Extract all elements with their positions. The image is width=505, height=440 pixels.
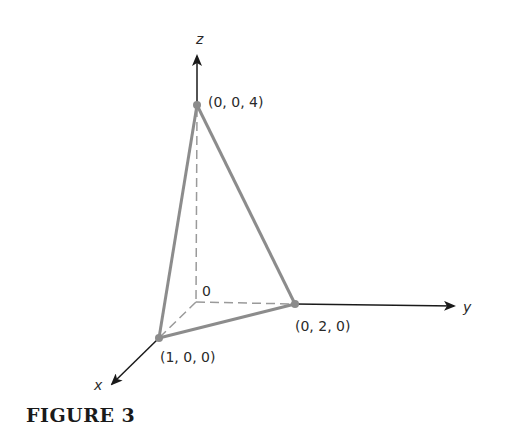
edge-apex-x — [159, 105, 197, 338]
point-label-0-0-4: (0, 0, 4) — [208, 94, 263, 110]
point-label-1-0-0: (1, 0, 0) — [160, 349, 215, 365]
figure-caption: FIGURE 3 — [26, 404, 135, 426]
hidden-edge-z — [196, 108, 197, 302]
vertex-1-0-0 — [155, 334, 163, 342]
point-label-0-2-0: (0, 2, 0) — [295, 318, 350, 334]
x-axis — [112, 338, 159, 384]
vertex-0-0-4 — [193, 101, 201, 109]
hidden-edge-y — [196, 302, 295, 304]
z-axis-label: z — [195, 31, 204, 47]
x-axis-label: x — [93, 377, 103, 393]
edge-x-y — [159, 304, 295, 338]
y-axis-label: y — [462, 299, 472, 315]
tetrahedron-diagram: z y x 0 (0, 0, 4) (0, 2, 0) (1, 0, 0) — [0, 0, 505, 440]
edge-apex-y — [197, 105, 295, 304]
vertex-0-2-0 — [291, 300, 299, 308]
origin-label: 0 — [202, 283, 211, 299]
y-axis — [295, 304, 454, 306]
